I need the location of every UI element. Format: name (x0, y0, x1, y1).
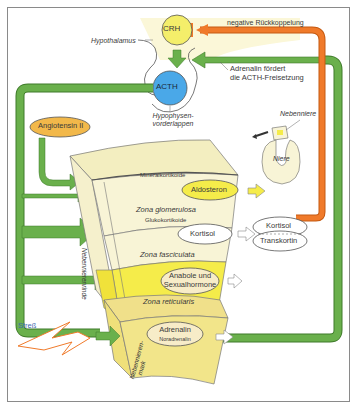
nebennierenrinde-label: Nebennierenrinde (81, 248, 88, 300)
hypophyse-label-line2: vorderlappen (150, 120, 196, 128)
acth-label: ACTH (156, 83, 178, 92)
zona-fasciculata-label: Zona fasciculata (140, 251, 195, 259)
stress-label: Streß (18, 322, 36, 330)
niere-label: Niere (273, 155, 290, 163)
sexualhormone-output-arrow (228, 274, 242, 288)
adrenalin-label: Adrenalin (147, 326, 203, 334)
adrenal-pointer-arrow (256, 132, 268, 136)
nebenniere-label: Nebenniere (280, 110, 316, 118)
kortisol-output-arrow (238, 227, 255, 241)
hypothalamus-label: Hypothalamus (91, 37, 136, 45)
aldosteron-label: Aldosteron (191, 186, 227, 194)
zona-reticularis-label: Zona reticularis (143, 298, 194, 306)
transkortin-label: Transkortin (260, 237, 297, 245)
zona-glomerulosa-label: Zona glomerulosa (136, 206, 196, 214)
acth-branch-arrow-1 (22, 190, 86, 202)
sexualhormone-label-line1: Anabole und (161, 272, 219, 280)
noradrenalin-label: Noradrenalin (147, 336, 203, 342)
crh-label: CRH (163, 25, 180, 34)
sexualhormone-label-line2: Sexualhormone (161, 281, 219, 289)
diagram-canvas (0, 0, 355, 407)
aldosteron-output-arrow (248, 184, 265, 198)
hypophyse-label-line1: Hypophysen- (150, 112, 196, 120)
adrenal-pointer-head (252, 134, 257, 139)
negative-feedback-label: negative Rückkoppelung (227, 19, 304, 27)
nebenniere-leader (286, 120, 300, 130)
adrenal-highlight (277, 130, 283, 135)
kortisol-bound-label: Kortisol (266, 222, 291, 230)
adrenalin-note-line2: die ACTH-Freisetzung (230, 74, 304, 82)
glukokortikoide-label: Glukokortikoide (145, 217, 186, 224)
mineralkortikoide-label: Mineralkortikoide (140, 172, 185, 179)
angiotensin-label: Angiotensin II (38, 122, 83, 130)
adrenalin-note-line1: Adrenalin fördert (230, 65, 285, 73)
kortisol-label: Kortisol (190, 230, 215, 238)
